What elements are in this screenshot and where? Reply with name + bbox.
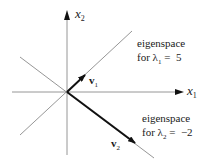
v2-label: v2 <box>111 137 121 152</box>
eigenspace-1-label-line1: eigenspace <box>137 37 185 49</box>
x2-axis-label: x2 <box>74 6 85 23</box>
eigenspace-2-label-line2: for λ2 = −2 <box>142 126 193 141</box>
x1-axis-label: x1 <box>186 83 197 100</box>
eigenspace-1-label-line2: for λ1 = 5 <box>137 51 182 66</box>
vector-v1 <box>67 75 85 92</box>
x2-axis-arrow-icon <box>64 10 70 20</box>
eigenspace-diagram: x2 x1 v1 v2 eigenspace for λ1 = 5 eigens… <box>0 0 213 168</box>
v1-label: v1 <box>89 74 99 89</box>
vector-v2 <box>67 92 135 143</box>
x1-axis-arrow-icon <box>175 89 184 95</box>
eigenspace-2-label-line1: eigenspace <box>142 112 190 124</box>
